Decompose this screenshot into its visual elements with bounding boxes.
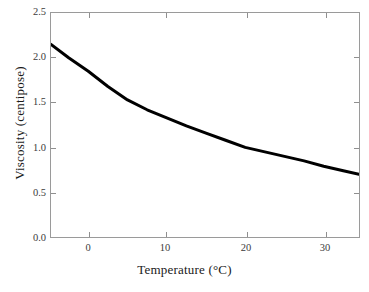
y-axis-label: Viscosity (centipose) bbox=[12, 66, 27, 180]
viscosity-temperature-chart: 2.5 2.0 1.5 1.0 0.5 0.0 0 10 20 30 Tempe… bbox=[0, 0, 369, 292]
x-tick-label: 0 bbox=[68, 243, 108, 254]
viscosity-curve-svg bbox=[51, 13, 359, 237]
x-tick-label: 30 bbox=[305, 243, 345, 254]
x-tick-label: 10 bbox=[145, 243, 185, 254]
y-axis-label-wrapper: Viscosity (centipose) bbox=[10, 10, 28, 236]
plot-area bbox=[50, 12, 360, 238]
x-axis-label: Temperature (°C) bbox=[0, 262, 369, 278]
x-axis-tick-labels: 0 10 20 30 bbox=[0, 243, 369, 259]
x-tick-label: 20 bbox=[226, 243, 266, 254]
viscosity-curve-line bbox=[51, 44, 359, 174]
